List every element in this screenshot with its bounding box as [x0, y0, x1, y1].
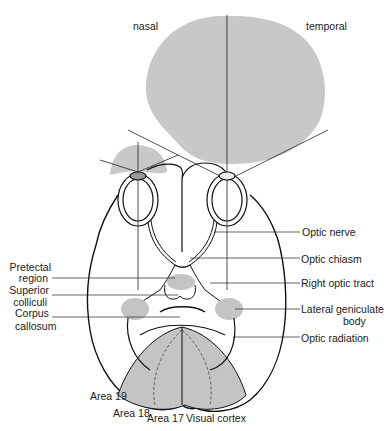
area-18-label: Area 18 [113, 407, 150, 419]
optic-chiasm-label: Optic chiasm [301, 253, 362, 265]
diagram-canvas [0, 0, 387, 431]
superior-colliculi-label: Superior [0, 284, 49, 296]
pretectal-region [167, 274, 195, 290]
temporal-label: temporal [306, 20, 347, 32]
corpus-callosum-label: Corpus [15, 307, 49, 319]
corpus-callosum-label-line2: callosum [15, 320, 56, 332]
lateral-geniculate-label: Lateral geniculate [301, 303, 384, 315]
area-19-label: Area 19 [90, 390, 127, 402]
area-17-label: Area 17 [147, 412, 184, 424]
optic-nerve-label: Optic nerve [302, 226, 356, 238]
visual-cortex-label: Visual cortex [186, 412, 246, 424]
visual-pathway-diagram: nasal temporal Optic nerve Optic chiasm … [0, 0, 387, 431]
pretectal-label-line2: region [0, 272, 48, 284]
optic-radiation-label: Optic radiation [301, 332, 369, 344]
left-eye-visual-field [110, 145, 167, 175]
right-optic-tract-label: Right optic tract [301, 277, 374, 289]
right-eye-visual-field [146, 16, 325, 164]
nasal-label: nasal [133, 20, 158, 32]
lateral-geniculate-label-line2: body [343, 315, 366, 327]
